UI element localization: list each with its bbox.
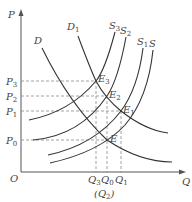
x-axis-label: Q [182,176,190,187]
demand-curve-d [42,48,172,162]
supply-label-s3: S3 [109,20,120,33]
quantity-label-q3: Q3 [88,174,101,187]
y-axis-label: P [7,9,15,20]
price-label-p3: P3 [5,76,17,89]
quantity-note-q2: (Q2) [94,188,115,201]
demand-label-d: D [33,35,42,46]
equilibrium-label-e1: E1 [122,104,135,117]
price-label-p1: P1 [5,106,17,119]
price-label-p2: P2 [5,91,17,104]
demand-label-d1: D1 [66,21,80,34]
quantity-label-q0: Q0 [101,174,114,187]
equilibrium-label-e: E [109,133,118,144]
origin-label: O [10,173,18,184]
supply-label-s2: S2 [120,25,131,38]
supply-curve-s1 [48,48,143,155]
supply-label-s1: S1 [137,36,148,49]
supply-demand-diagram: P Q O P3 P2 P1 P0 Q3 Q0 Q1 (Q2) D D1 S3 … [0,0,192,202]
x-axis-arrow-icon [179,170,186,175]
y-axis-arrow-icon [19,9,24,16]
equilibrium-label-e3: E3 [97,73,110,86]
supply-label-s: S [149,38,156,49]
quantity-label-q1: Q1 [115,174,128,187]
price-label-p0: P0 [5,135,17,148]
supply-curves [29,32,153,163]
